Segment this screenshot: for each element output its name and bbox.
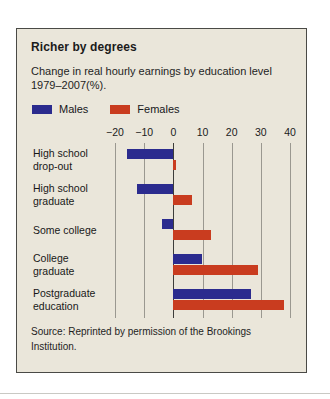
x-tick-label--20: −20 [106,126,124,138]
x-tick-label-20: 20 [226,126,238,138]
category-label: High school drop-out [33,148,111,173]
chart-source: Source: Reprinted by permission of the B… [31,325,294,354]
page-background: Richer by degrees Change in real hourly … [0,0,330,399]
bar-females [173,160,176,170]
x-tick-label--10: −10 [135,126,153,138]
figure-panel: Richer by degrees Change in real hourly … [16,28,307,373]
bar-males [162,219,174,229]
chart-row: Some college [31,213,294,248]
page-bottom-rule [0,393,330,394]
bar-females [173,265,258,275]
legend-swatch-females [110,105,130,114]
x-tick-label-30: 30 [255,126,267,138]
bar-females [173,230,211,240]
category-label: Some college [33,224,111,237]
legend-item-males: Males [32,104,88,115]
x-tick-label-40: 40 [284,126,296,138]
category-label: Postgraduate education [33,288,111,313]
chart-title: Richer by degrees [31,41,292,55]
chart-rows: High school drop-outHigh school graduate… [31,143,294,318]
category-label: College graduate [33,253,111,278]
bar-males [173,289,250,299]
chart-row: College graduate [31,248,294,283]
bar-females [173,300,284,310]
legend-label-females: Females [137,104,179,115]
bar-males [127,149,174,159]
x-tick-label-10: 10 [197,126,209,138]
chart-subtitle: Change in real hourly earnings by educat… [31,64,283,93]
chart-row: High school graduate [31,178,294,213]
legend-label-males: Males [59,104,88,115]
bar-chart: −20−10010203040 High school drop-outHigh… [31,125,294,321]
category-label: High school graduate [33,183,111,208]
chart-legend: Males Females [32,104,292,115]
bar-males [173,254,202,264]
chart-row: High school drop-out [31,143,294,178]
bar-females [173,195,192,205]
legend-swatch-males [32,105,52,114]
bar-males [137,184,173,194]
chart-row: Postgraduate education [31,283,294,318]
figure-panel-inner: Richer by degrees Change in real hourly … [17,29,306,372]
x-tick-label-0: 0 [170,126,176,138]
legend-item-females: Females [110,104,179,115]
